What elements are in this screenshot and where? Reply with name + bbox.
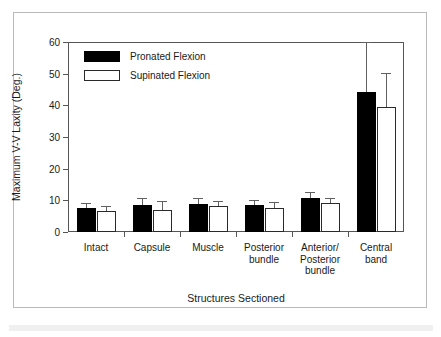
error-bar-stem [366,42,367,92]
bar [377,107,396,232]
bar [189,204,208,232]
legend-swatch [84,70,120,81]
error-bar-stem [162,201,163,210]
x-tick-label: Intact [84,242,108,254]
y-tick-label: 30 [49,132,60,143]
error-bar-cap [137,198,147,199]
y-tick-label: 50 [49,68,60,79]
x-tick-mark [180,232,181,237]
error-bar-cap [325,198,335,199]
error-bar-cap [269,202,279,203]
y-tick-mark [63,169,68,170]
bar [245,205,264,232]
bottom-strip [9,325,433,331]
x-axis-title: Structures Sectioned [187,292,284,304]
bar [209,206,228,232]
error-bar-cap [249,200,259,201]
legend-swatch [84,51,120,62]
plot-right-border [403,42,404,232]
bar [77,208,96,232]
bar [153,210,172,232]
bar [97,211,116,232]
x-tick-mark [236,232,237,237]
y-tick-mark [63,200,68,201]
y-tick-mark [63,105,68,106]
x-tick-label: Central band [360,242,392,265]
x-tick-label: Muscle [192,242,224,254]
y-tick-mark [63,74,68,75]
x-tick-label: Posterior bundle [244,242,284,265]
y-tick-mark [63,42,68,43]
x-tick-mark [124,232,125,237]
error-bar-cap [213,201,223,202]
x-tick-label: Anterior/ Posterior bundle [300,242,340,277]
bar [133,205,152,232]
error-bar-cap [381,73,391,74]
y-tick-label: 0 [54,227,60,238]
y-tick-label: 10 [49,195,60,206]
bar [301,198,320,232]
y-tick-label: 40 [49,100,60,111]
figure-root: 0102030405060 Maximum V-V Laxity (Deg.) … [0,0,441,337]
x-tick-mark [292,232,293,237]
y-tick-mark [63,137,68,138]
error-bar-cap [157,201,167,202]
bar [357,92,376,232]
legend-label: Supinated Flexion [130,70,210,81]
error-bar-cap [81,203,91,204]
x-tick-mark [348,232,349,237]
y-tick-mark [63,232,68,233]
x-tick-label: Capsule [134,242,171,254]
error-bar-stem [386,73,387,106]
y-tick-label: 60 [49,37,60,48]
plot-area: 0102030405060 Maximum V-V Laxity (Deg.) … [68,42,404,232]
y-tick-label: 20 [49,163,60,174]
error-bar-cap [361,42,371,43]
legend-item: Pronated Flexion [84,47,210,66]
y-axis-title: Maximum V-V Laxity (Deg.) [10,73,22,201]
chart-legend: Pronated FlexionSupinated Flexion [84,47,210,85]
plot-top-border [68,42,404,43]
y-axis-line [68,42,69,232]
legend-item: Supinated Flexion [84,66,210,85]
legend-label: Pronated Flexion [130,51,206,62]
error-bar-cap [305,192,315,193]
error-bar-cap [101,206,111,207]
bar [265,208,284,232]
error-bar-cap [193,198,203,199]
bar [321,203,340,232]
